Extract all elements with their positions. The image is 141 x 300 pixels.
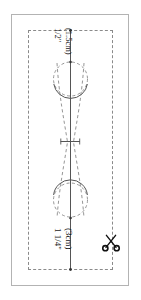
center-line-bottom-dot bbox=[69, 268, 72, 271]
measurement-bottom-inches: 1 1/4" bbox=[53, 228, 63, 250]
measurement-top-metric: (1.5cm) bbox=[64, 28, 74, 55]
scissors-icon bbox=[101, 232, 121, 252]
bowtie-seam-curve-left bbox=[57, 63, 68, 218]
measurement-top-inches: 1/2" bbox=[53, 28, 63, 42]
measurement-bottom-metric: (3cm) bbox=[64, 228, 74, 250]
pattern-page: 1/2" (1.5cm) 1 1/4" (3cm) bbox=[0, 0, 141, 300]
upper-circle-center-dot bbox=[69, 61, 72, 64]
bowtie-seam-curve-right bbox=[74, 63, 85, 218]
